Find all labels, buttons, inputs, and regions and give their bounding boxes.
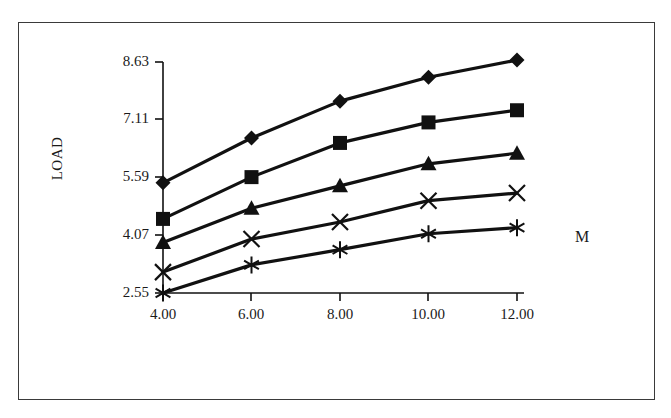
x-tick-label-4: 12.00 [482, 306, 552, 323]
figure-root: 8.63 7.11 5.59 4.07 2.55 4.00 6.00 8.00 … [0, 0, 671, 418]
data-point-marker-square [333, 136, 347, 150]
series-line-1 [163, 60, 517, 183]
series-line-2 [163, 110, 517, 219]
y-axis-title: LOAD [49, 124, 66, 194]
data-point-marker-square [245, 170, 259, 184]
data-point-marker-diamond [244, 130, 259, 145]
y-tick-label-2: 5.59 [93, 168, 149, 185]
x-tick-label-0: 4.00 [128, 306, 198, 323]
y-tick-label-0: 8.63 [93, 53, 149, 70]
y-tick-label-3: 4.07 [93, 226, 149, 243]
x-tick-label-2: 8.00 [305, 306, 375, 323]
data-point-marker-diamond [333, 94, 348, 109]
x-axis-ticks [163, 293, 517, 301]
x-tick-label-3: 10.00 [393, 306, 463, 323]
data-point-marker-square [510, 103, 524, 117]
chart-series-5 [156, 219, 525, 301]
data-point-marker-square [156, 212, 170, 226]
data-point-marker-square [422, 115, 436, 129]
y-tick-label-4: 2.55 [93, 284, 149, 301]
series-group-label: M [575, 228, 589, 246]
series-line-5 [163, 228, 517, 293]
chart-series-4 [155, 185, 525, 280]
data-point-marker-diamond [510, 53, 525, 68]
chart-series-2 [156, 103, 524, 226]
chart-series-1 [156, 53, 525, 191]
data-point-marker-diamond [421, 70, 436, 85]
x-tick-label-1: 6.00 [216, 306, 286, 323]
chart-series-layer [155, 53, 525, 302]
y-tick-label-1: 7.11 [93, 110, 149, 127]
